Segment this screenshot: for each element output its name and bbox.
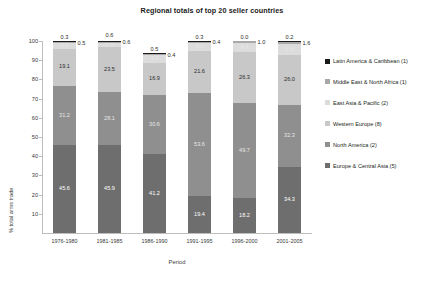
bar-segment-1991-1995-5[interactable] [188,41,211,42]
y-tick-label-100: 100 [29,38,38,44]
bar-segment-1991-1995-4[interactable] [188,42,211,43]
y-tick-label-70: 70 [32,96,38,102]
bar-value-1986-1990-4: 0.4 [168,52,176,58]
bar-value-1996-2000-4: 1.0 [258,39,266,45]
bar-segment-1976-1980-3[interactable]: 3.3 [53,43,76,49]
bar-value-1996-2000-3: 4.8 [241,45,249,51]
y-axis-label: % total arms trade [8,41,14,233]
x-tick-label-1996-2000: 1996-2000 [232,238,258,244]
bar-segment-1991-1995-0[interactable]: 19.4 [188,196,211,233]
bar-segment-1976-1980-4[interactable] [53,42,76,43]
bar-value-1981-1985-0: 45.9 [104,186,115,192]
legend-swatch-icon [325,142,330,147]
bar-segment-1996-2000-2[interactable]: 26.3 [233,52,256,102]
legend-item-0[interactable]: Latin America & Caribbean (1) [325,58,421,65]
bar-segment-1996-2000-3[interactable]: 4.8 [233,43,256,52]
legend-item-5[interactable]: Europe & Central Asia (5) [325,163,421,170]
legend-swatch-icon [325,100,330,105]
y-tick-mark-30 [39,175,42,176]
bar-segment-1986-1990-2[interactable]: 16.9 [143,63,166,95]
legend-item-2[interactable]: East Asia & Pacific (2) [325,100,421,107]
bar-segment-1991-1995-2[interactable]: 21.6 [188,51,211,92]
legend-item-label: Middle East & North Africa (1) [333,79,407,86]
bar-value-2001-2005-5: 0.2 [286,34,294,40]
bar-segment-1986-1990-4[interactable] [143,54,166,55]
bar-value-1981-1985-2: 23.5 [104,67,115,73]
bar-segment-1976-1980-5[interactable] [53,41,76,42]
y-tick-label-80: 80 [32,76,38,82]
bar-segment-1981-1985-1[interactable]: 28.1 [98,92,121,146]
bar-value-1981-1985-1: 28.1 [104,116,115,122]
y-tick-mark-60 [39,118,42,119]
bar-value-2001-2005-3: 5.6 [286,47,294,53]
bar-segment-2001-2005-2[interactable]: 26.0 [278,55,301,105]
x-tick-label-1991-1995: 1991-1995 [187,238,213,244]
bar-1996-2000[interactable]: 18.249.726.34.8 [233,41,256,233]
bar-segment-1996-2000-1[interactable]: 49.7 [233,103,256,198]
bar-1991-1995[interactable]: 19.453.621.64.7 [188,41,211,233]
legend-item-label: Europe & Central Asia (5) [333,163,396,170]
bar-segment-1981-1985-0[interactable]: 45.9 [98,145,121,233]
bar-segment-1981-1985-2[interactable]: 23.5 [98,47,121,92]
bar-value-1991-1995-0: 19.4 [194,212,205,218]
bar-segment-1976-1980-1[interactable]: 31.2 [53,86,76,146]
legend-item-1[interactable]: Middle East & North Africa (1) [325,79,421,86]
bar-segment-1976-1980-2[interactable]: 19.1 [53,49,76,86]
legend-item-3[interactable]: Western Europe (8) [325,121,421,128]
bar-segment-2001-2005-0[interactable]: 34.3 [278,167,301,233]
bar-value-1996-2000-1: 49.7 [239,148,250,154]
bar-1976-1980[interactable]: 45.631.219.13.3 [53,41,76,233]
x-axis-line [42,233,312,234]
bar-value-1976-1980-3: 3.3 [61,43,69,49]
legend-swatch-icon [325,121,330,126]
bar-value-1991-1995-3: 4.7 [196,44,204,50]
bar-segment-1981-1985-5[interactable] [98,41,121,42]
legend-swatch-icon [325,79,330,84]
bar-segment-1996-2000-0[interactable]: 18.2 [233,198,256,233]
bar-segment-1996-2000-4[interactable] [233,41,256,43]
bar-segment-2001-2005-1[interactable]: 32.3 [278,105,301,167]
legend-item-label: Latin America & Caribbean (1) [333,58,408,65]
bar-segment-1991-1995-1[interactable]: 53.6 [188,93,211,196]
bar-value-1986-1990-1: 30.6 [149,122,160,128]
bar-value-1981-1985-5: 0.6 [106,32,114,38]
y-tick-label-20: 20 [32,192,38,198]
bar-segment-1981-1985-3[interactable]: 1.9 [98,43,121,47]
y-tick-label-90: 90 [32,57,38,63]
bar-segment-1991-1995-3[interactable]: 4.7 [188,42,211,51]
bar-1986-1990[interactable]: 41.230.616.94.0 [143,41,166,233]
y-tick-mark-80 [39,79,42,80]
y-tick-mark-100 [39,41,42,42]
y-tick-mark-10 [39,214,42,215]
legend-item-4[interactable]: North America (2) [325,142,421,149]
bar-value-1996-2000-2: 26.3 [239,75,250,81]
bar-2001-2005[interactable]: 34.332.326.05.6 [278,41,301,233]
bar-segment-2001-2005-4[interactable] [278,41,301,44]
bar-value-1986-1990-0: 41.2 [149,191,160,197]
y-tick-label-10: 10 [32,211,38,217]
bar-value-2001-2005-1: 32.3 [284,133,295,139]
bar-1981-1985[interactable]: 45.928.123.51.9 [98,41,121,233]
y-axis-line [42,41,43,233]
y-tick-label-30: 30 [32,172,38,178]
bar-segment-1986-1990-5[interactable] [143,53,166,54]
y-tick-mark-40 [39,156,42,157]
legend-item-label: North America (2) [333,142,377,149]
bar-value-1996-2000-0: 18.2 [239,213,250,219]
bar-value-1981-1985-4: 0.6 [123,39,131,45]
bar-value-1976-1980-0: 45.6 [59,186,70,192]
bar-value-1976-1980-1: 31.2 [59,113,70,119]
legend-item-label: East Asia & Pacific (2) [333,100,388,107]
plot-area: 1020304050607080901001976-19800.50.345.6… [42,41,312,233]
y-tick-label-50: 50 [32,134,38,140]
bar-segment-1976-1980-0[interactable]: 45.6 [53,145,76,233]
bar-segment-1986-1990-1[interactable]: 30.6 [143,95,166,154]
legend-swatch-icon [325,163,330,168]
bar-segment-1986-1990-3[interactable]: 4.0 [143,55,166,63]
bar-segment-1981-1985-4[interactable] [98,42,121,43]
bar-value-1996-2000-5: 0.0 [241,34,249,40]
y-tick-mark-70 [39,99,42,100]
bar-segment-1986-1990-0[interactable]: 41.2 [143,154,166,233]
bar-value-2001-2005-0: 34.3 [284,197,295,203]
bar-segment-2001-2005-3[interactable]: 5.6 [278,44,301,55]
